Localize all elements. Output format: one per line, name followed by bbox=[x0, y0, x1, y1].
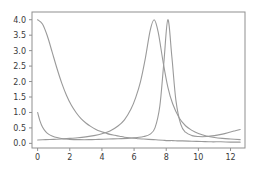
y-tick-label: 2.0 bbox=[13, 78, 26, 87]
x-tick-label: 8 bbox=[164, 153, 169, 162]
figure-container: 0.00.51.01.52.02.53.03.54.0 024681012 bbox=[0, 0, 256, 178]
y-tick-label: 0.5 bbox=[13, 124, 26, 133]
y-tick-label: 3.0 bbox=[13, 47, 26, 56]
x-tick-label: 2 bbox=[67, 153, 72, 162]
chart-canvas: 0.00.51.01.52.02.53.03.54.0 024681012 bbox=[0, 0, 256, 178]
y-tick-label: 0.0 bbox=[13, 139, 26, 148]
y-tick-label: 1.5 bbox=[13, 93, 26, 102]
y-tick-label: 4.0 bbox=[13, 16, 26, 25]
x-tick-label: 12 bbox=[225, 153, 235, 162]
x-tick-label: 6 bbox=[132, 153, 137, 162]
plot-area-background bbox=[32, 12, 245, 148]
y-tick-label: 2.5 bbox=[13, 62, 26, 71]
x-tick-label: 4 bbox=[99, 153, 104, 162]
x-tick-label: 10 bbox=[193, 153, 203, 162]
y-tick-label: 3.5 bbox=[13, 31, 26, 40]
x-tick-label: 0 bbox=[35, 153, 40, 162]
y-tick-label: 1.0 bbox=[13, 108, 26, 117]
